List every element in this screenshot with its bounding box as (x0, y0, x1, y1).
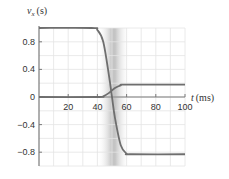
x-tick-label: 80 (151, 102, 161, 112)
x-tick-label: 60 (122, 102, 132, 112)
x-tick-label: 100 (177, 102, 192, 112)
chart: 204060801000.80.40−0.4−0.8 vx(s) t(ms) (0, 0, 229, 179)
x-tick-label: 20 (63, 102, 73, 112)
y-tick-label: −0.8 (17, 147, 35, 157)
y-tick-label: 0 (30, 92, 35, 102)
y-tick-label: 0.8 (22, 37, 35, 47)
y-tick-label: 0.4 (22, 64, 35, 74)
y-axis-label: vx(s) (27, 5, 47, 18)
x-axis-label: t(ms) (191, 92, 214, 104)
x-tick-label: 40 (92, 102, 102, 112)
y-tick-label: −0.4 (17, 120, 35, 130)
